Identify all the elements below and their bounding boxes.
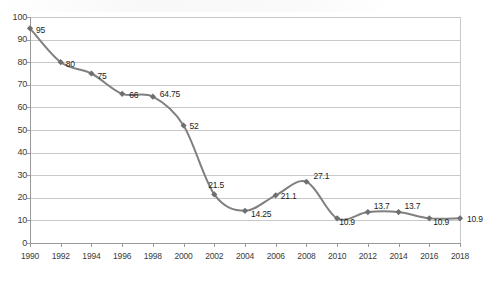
point-value-label: 10.9 [433,218,449,227]
line-chart-figure: 0102030405060708090100 19901992199419961… [0,0,483,289]
point-value-label: 66 [129,91,138,100]
point-value-label: 14.25 [251,210,271,219]
point-value-label: 75 [97,72,106,81]
data-point-marker [119,91,125,97]
data-point-marker [242,208,248,214]
data-point-marker [365,209,371,215]
point-value-label: 80 [66,60,75,69]
point-value-label: 21.1 [281,192,297,201]
point-value-label: 21.5 [208,181,224,190]
point-value-label: 10.9 [467,215,483,224]
point-value-label: 13.7 [374,202,390,211]
series-line [30,28,460,219]
data-point-marker [426,215,432,221]
point-value-label: 13.7 [405,202,421,211]
data-series [0,0,483,289]
series-markers [27,25,463,221]
point-value-label: 27.1 [313,172,329,181]
data-point-marker [457,215,463,221]
data-point-marker [395,209,401,215]
point-value-label: 52 [190,122,199,131]
point-value-label: 10.9 [339,218,355,227]
point-value-label: 95 [36,26,45,35]
point-value-label: 64.75 [160,90,180,99]
